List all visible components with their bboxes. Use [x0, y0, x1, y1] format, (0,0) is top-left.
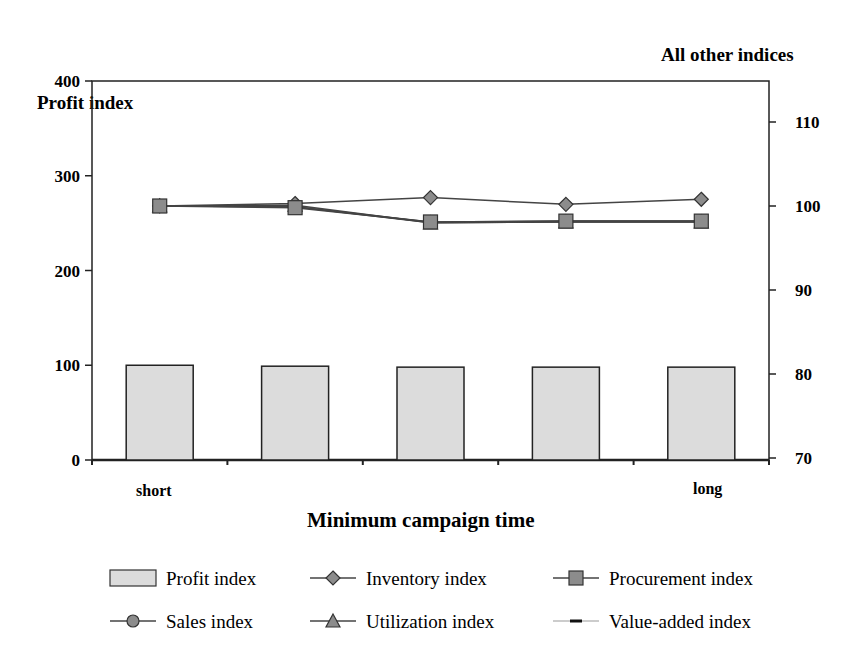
left-tick-label: 300	[55, 167, 81, 186]
combo-chart: Profit index All other indices 010020030…	[0, 0, 851, 661]
left-tick-label: 0	[72, 451, 81, 470]
bar-profit-index	[262, 366, 329, 460]
bar-profit-index	[532, 367, 599, 460]
left-tick-label: 100	[55, 356, 81, 375]
right-tick-label: 110	[795, 113, 820, 132]
right-tick-label: 70	[795, 449, 812, 468]
left-tick-label: 200	[55, 262, 81, 281]
bar-profit-index	[397, 367, 464, 460]
marker-square	[153, 199, 167, 213]
legend-label: Profit index	[166, 568, 257, 589]
marker-square	[694, 214, 708, 228]
legend-label: Inventory index	[366, 568, 487, 589]
marker-square	[288, 201, 302, 215]
legend-circle-icon	[127, 615, 139, 627]
bar-profit-index	[126, 365, 193, 460]
marker-diamond	[559, 197, 573, 211]
marker-diamond	[424, 191, 438, 205]
legend-label: Value-added index	[609, 611, 751, 632]
legend-label: Procurement index	[609, 568, 754, 589]
legend: Profit indexInventory indexProcurement i…	[110, 568, 754, 632]
bar-profit-index	[668, 367, 735, 460]
plot-area: 0100200300400708090100110	[55, 72, 821, 470]
marker-square	[424, 215, 438, 229]
left-tick-label: 400	[55, 72, 81, 91]
legend-swatch-bar	[110, 570, 156, 586]
legend-square-icon	[569, 571, 583, 585]
right-axis-title: All other indices	[661, 44, 794, 65]
category-label-short: short	[136, 482, 172, 499]
marker-diamond	[694, 192, 708, 206]
legend-label: Sales index	[166, 611, 254, 632]
right-tick-label: 100	[795, 197, 821, 216]
x-axis-title: Minimum campaign time	[307, 508, 534, 532]
legend-label: Utilization index	[366, 611, 495, 632]
category-label-long: long	[693, 480, 722, 498]
right-tick-label: 80	[795, 365, 812, 384]
right-tick-label: 90	[795, 281, 812, 300]
left-axis-title: Profit index	[37, 92, 134, 113]
marker-square	[559, 214, 573, 228]
legend-diamond-icon	[326, 571, 340, 585]
